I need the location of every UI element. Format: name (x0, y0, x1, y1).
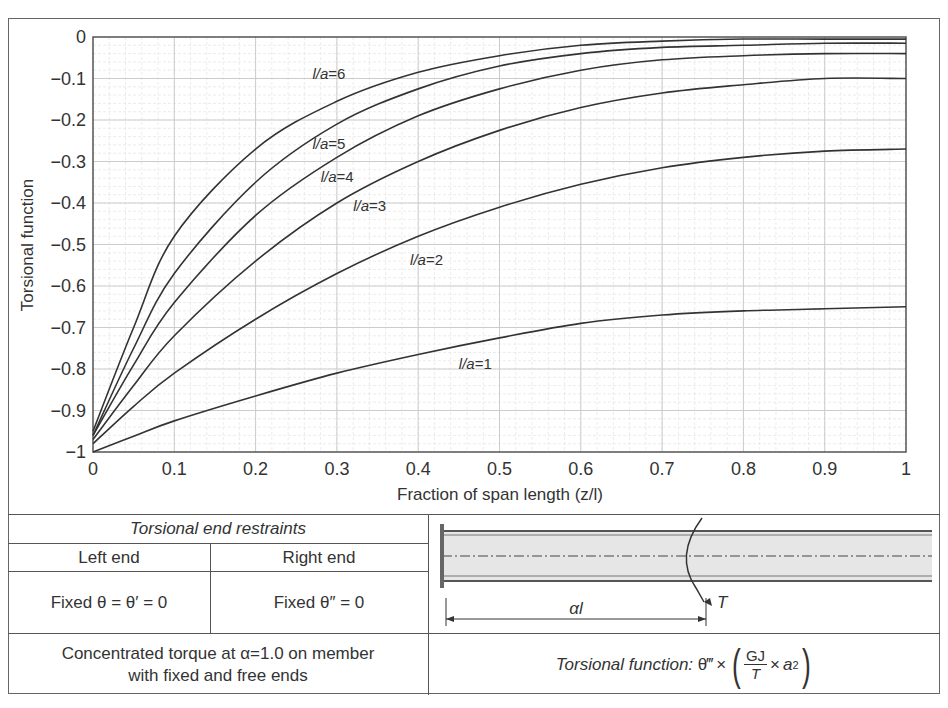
x-tick-label: 0.7 (650, 459, 675, 479)
curve-label: l/a=5 (313, 135, 346, 152)
curve-label: l/a=1 (459, 355, 492, 372)
formula-times-2: × (770, 655, 780, 675)
x-tick-label: 0 (88, 459, 98, 479)
load-description: Concentrated torque at α=1.0 on member w… (8, 634, 428, 695)
fraction: GJ T (744, 647, 767, 682)
paren-open: ( (732, 645, 741, 685)
x-tick-label: 0.1 (162, 459, 187, 479)
x-tick-label: 0.9 (812, 459, 837, 479)
y-tick-label: 0 (76, 27, 86, 47)
fraction-numerator: GJ (744, 647, 767, 665)
torque-arrowhead-icon (704, 598, 712, 606)
torsional-function-chart: l/a=1l/a=2l/a=3l/a=4l/a=5l/a=6 00.10.20.… (0, 0, 948, 514)
y-tick-label: −0.6 (50, 276, 86, 296)
x-axis-label: Fraction of span length (z/l) (397, 485, 603, 504)
y-tick-label: −0.7 (50, 318, 86, 338)
x-tick-label: 0.6 (568, 459, 593, 479)
major-grid (93, 37, 906, 452)
fixed-support (440, 524, 444, 588)
fraction-denominator: T (751, 665, 760, 682)
table-header: Torsional end restraints (8, 515, 428, 543)
formula-exponent: 2 (792, 659, 798, 671)
curve-label: l/a=6 (313, 65, 346, 82)
x-tick-label: 0.3 (324, 459, 349, 479)
dimension-arrow-right-icon (698, 616, 706, 622)
torque-label: T (717, 593, 729, 612)
y-tick-label: −0.8 (50, 359, 86, 379)
formula: Torsional function: θ‴ × ( GJ T × a 2 ) (429, 634, 940, 695)
curve-label: l/a=2 (410, 251, 443, 268)
left-end-label: Left end (8, 544, 210, 571)
curve-label: l/a=3 (353, 197, 386, 214)
description-line-2: with fixed and free ends (128, 665, 308, 687)
formula-times: × (716, 655, 726, 675)
paren-close: ) (802, 645, 811, 685)
x-tick-label: 0.8 (731, 459, 756, 479)
formula-prefix: Torsional function: (556, 655, 698, 675)
y-tick-labels: 0−0.1−0.2−0.3−0.4−0.5−0.6−0.7−0.8−0.9−1 (50, 27, 86, 462)
x-tick-labels: 00.10.20.30.40.50.60.70.80.91 (88, 459, 911, 479)
formula-a: a (783, 655, 792, 675)
y-axis-label: Torsional function (18, 179, 37, 311)
span-label: αl (569, 599, 584, 618)
beam-diagram: T αl (434, 516, 940, 634)
x-tick-label: 0.5 (487, 459, 512, 479)
y-tick-label: −0.1 (50, 69, 86, 89)
right-end-label: Right end (210, 544, 428, 571)
x-tick-label: 0.2 (243, 459, 268, 479)
right-end-value: Fixed θ″ = 0 (210, 572, 428, 633)
formula-theta: θ‴ (698, 655, 713, 675)
x-tick-label: 0.4 (406, 459, 431, 479)
x-tick-label: 1 (901, 459, 911, 479)
y-tick-label: −0.9 (50, 401, 86, 421)
left-end-value: Fixed θ = θ′ = 0 (8, 572, 210, 633)
curve-label: l/a=4 (321, 168, 354, 185)
y-tick-label: −0.5 (50, 235, 86, 255)
description-line-1: Concentrated torque at α=1.0 on member (62, 643, 375, 665)
y-tick-label: −1 (65, 442, 86, 462)
y-tick-label: −0.4 (50, 193, 86, 213)
y-tick-label: −0.3 (50, 152, 86, 172)
dimension-arrow-left-icon (446, 616, 454, 622)
y-tick-label: −0.2 (50, 110, 86, 130)
